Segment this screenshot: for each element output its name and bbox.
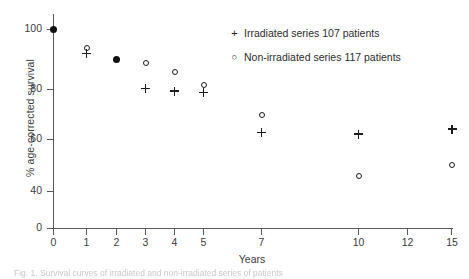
x-tick-10 [358,229,359,235]
x-axis-title: Years [192,253,312,265]
data-point-non-irradiated [172,69,178,75]
plus-marker-icon: + [228,27,241,39]
data-point-non-irradiated [143,60,149,66]
y-axis-title: % age-corrected survival [24,28,36,208]
x-tick-2 [116,229,117,235]
legend-entry-irradiated: + Irradiated series 107 patients [228,27,379,39]
x-tick-label-0: 0 [42,236,66,248]
x-tick-label-2: 2 [105,236,129,248]
x-tick-15 [451,229,452,235]
y-tick-80 [47,89,53,90]
x-tick-label-1: 1 [75,236,99,248]
y-tick-40 [47,191,53,192]
data-point-non-irradiated [356,173,362,179]
y-axis-line [53,14,54,229]
x-tick-label-3: 3 [134,236,158,248]
legend-label-irradiated: Irradiated series 107 patients [244,27,379,39]
data-point-irradiated [82,49,91,58]
data-point-shared [113,56,120,63]
data-point-shared [50,26,57,33]
data-point-irradiated [257,128,266,137]
data-point-non-irradiated [449,162,455,168]
x-tick-label-4: 4 [163,236,187,248]
x-tick-1 [86,229,87,235]
data-point-irradiated [199,88,208,97]
x-tick-label-15: 15 [440,236,464,248]
data-point-non-irradiated [259,112,265,118]
legend-entry-non-irradiated: ○ Non-irradiated series 117 patients [228,51,401,63]
y-tick-label-0: 0 [8,221,42,233]
x-tick-4 [174,229,175,235]
data-point-irradiated [448,125,457,134]
x-tick-label-7: 7 [250,236,274,248]
data-point-irradiated [170,87,179,96]
legend-label-non-irradiated: Non-irradiated series 117 patients [244,51,401,63]
circle-marker-icon: ○ [228,52,241,62]
x-tick-label-5: 5 [192,236,216,248]
x-axis-line [53,228,453,229]
x-tick-label-12: 12 [396,236,420,248]
x-tick-3 [145,229,146,235]
data-point-irradiated [141,84,150,93]
data-point-irradiated [354,130,363,139]
x-tick-5 [203,229,204,235]
x-tick-7 [261,229,262,235]
x-tick-label-10: 10 [347,236,371,248]
x-tick-0 [53,229,54,235]
x-tick-12 [407,229,408,235]
figure-caption: Fig. 1. Survival curves of irradiated an… [14,268,454,279]
y-tick-60 [47,139,53,140]
